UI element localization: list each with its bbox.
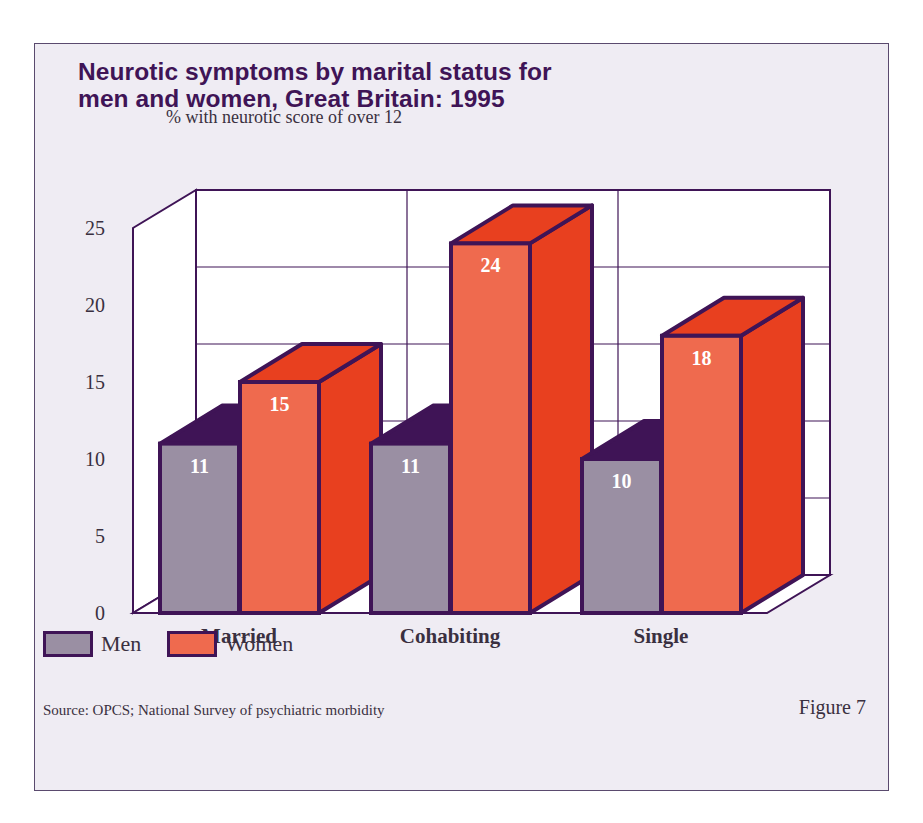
data-label: 24 [481, 254, 501, 276]
data-label: 15 [270, 393, 290, 415]
legend-swatch-men [43, 631, 93, 657]
legend-label-women: Women [225, 631, 293, 657]
y-tick-label: 5 [95, 525, 105, 547]
x-category-label: Cohabiting [400, 624, 501, 648]
y-tick-label: 10 [85, 448, 105, 470]
legend: Men Women [43, 631, 319, 657]
data-label: 11 [190, 455, 209, 477]
y-tick-label: 0 [95, 602, 105, 624]
x-category-label: Single [634, 624, 689, 648]
figure-number: Figure 7 [799, 696, 866, 719]
y-tick-label: 25 [85, 217, 105, 239]
data-label: 18 [692, 347, 712, 369]
y-tick-label: 20 [85, 294, 105, 316]
bar-women-cohabiting: 24 [451, 205, 592, 613]
data-label: 11 [401, 455, 420, 477]
bar-women-married: 15 [240, 344, 381, 613]
legend-swatch-women [167, 631, 217, 657]
bar-women-single: 18 [662, 298, 803, 613]
data-label: 10 [612, 470, 632, 492]
source-note: Source: OPCS; National Survey of psychia… [43, 702, 385, 719]
y-tick-label: 15 [85, 371, 105, 393]
legend-item-men: Men [43, 631, 141, 657]
legend-label-men: Men [101, 631, 141, 657]
bar-chart-plot: 05101520251115Married1124Cohabiting1018S… [0, 0, 923, 823]
legend-item-women: Women [167, 631, 293, 657]
